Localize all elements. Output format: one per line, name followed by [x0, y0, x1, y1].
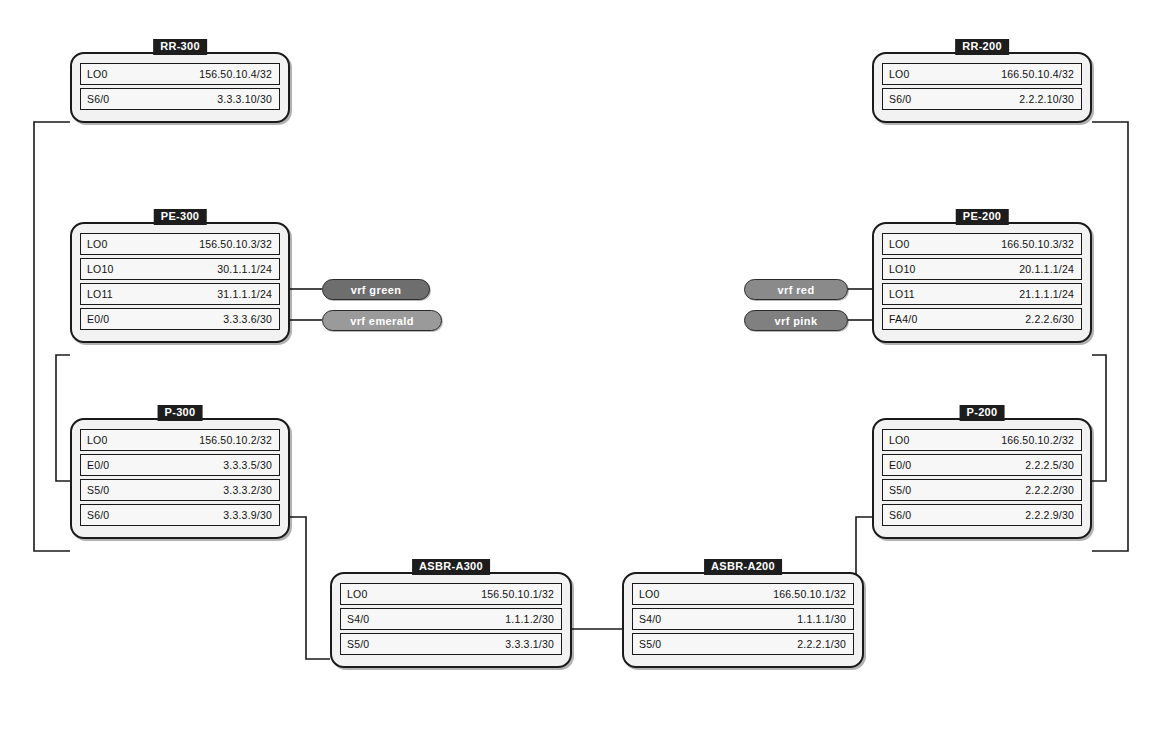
- interface-name: S6/0: [87, 93, 109, 105]
- link-rr300-p300: [34, 122, 70, 551]
- interface-address: 156.50.10.2/32: [199, 434, 272, 446]
- link-rr200-p200: [1092, 122, 1128, 551]
- interface-rows: LO0 166.50.10.3/32 LO10 20.1.1.1/24 LO11…: [882, 233, 1082, 330]
- interface-address: 156.50.10.4/32: [199, 68, 272, 80]
- interface-rows: LO0 156.50.10.4/32 S6/0 3.3.3.10/30: [80, 63, 280, 110]
- interface-row: LO11 21.1.1.1/24: [882, 283, 1082, 305]
- interface-name: LO11: [889, 288, 915, 300]
- interface-address: 3.3.3.9/30: [223, 509, 272, 521]
- interface-name: S4/0: [639, 613, 661, 625]
- interface-rows: LO0 166.50.10.1/32 S4/0 1.1.1.1/30 S5/0 …: [632, 583, 854, 655]
- interface-row: LO0 166.50.10.4/32: [882, 63, 1082, 85]
- node-title-rr-300: RR-300: [153, 39, 207, 55]
- interface-row: S5/0 2.2.2.2/30: [882, 479, 1082, 501]
- interface-address: 156.50.10.3/32: [199, 238, 272, 250]
- node-title-p-300: P-300: [158, 405, 203, 421]
- interface-row: E0/0 2.2.2.5/30: [882, 454, 1082, 476]
- interface-address: 1.1.1.2/30: [505, 613, 554, 625]
- node-pe-200[interactable]: PE-200 LO0 166.50.10.3/32 LO10 20.1.1.1/…: [872, 222, 1092, 343]
- interface-name: S5/0: [87, 484, 109, 496]
- interface-address: 31.1.1.1/24: [217, 288, 272, 300]
- interface-name: LO0: [889, 238, 909, 250]
- interface-address: 2.2.2.1/30: [797, 638, 846, 650]
- vrf-badge-emerald[interactable]: vrf emerald: [322, 310, 442, 331]
- vrf-badge-red[interactable]: vrf red: [744, 279, 848, 300]
- interface-rows: LO0 156.50.10.1/32 S4/0 1.1.1.2/30 S5/0 …: [340, 583, 562, 655]
- interface-address: 166.50.10.3/32: [1001, 238, 1074, 250]
- interface-row: LO0 156.50.10.4/32: [80, 63, 280, 85]
- interface-name: S6/0: [889, 93, 911, 105]
- link-pe300-p300: [56, 355, 70, 481]
- interface-address: 3.3.3.1/30: [505, 638, 554, 650]
- interface-name: LO0: [347, 588, 367, 600]
- interface-address: 3.3.3.5/30: [223, 459, 272, 471]
- node-title-pe-200: PE-200: [956, 209, 1009, 225]
- interface-rows: LO0 166.50.10.2/32 E0/0 2.2.2.5/30 S5/0 …: [882, 429, 1082, 526]
- interface-row: FA4/0 2.2.2.6/30: [882, 308, 1082, 330]
- vrf-badge-green[interactable]: vrf green: [322, 279, 430, 300]
- interface-address: 2.2.2.5/30: [1025, 459, 1074, 471]
- vrf-badge-pink[interactable]: vrf pink: [744, 310, 848, 331]
- interface-address: 3.3.3.6/30: [223, 313, 272, 325]
- interface-row: E0/0 3.3.3.5/30: [80, 454, 280, 476]
- node-rr-300[interactable]: RR-300 LO0 156.50.10.4/32 S6/0 3.3.3.10/…: [70, 52, 290, 123]
- interface-address: 156.50.10.1/32: [481, 588, 554, 600]
- interface-name: LO0: [87, 434, 107, 446]
- link-pe200-p200: [1092, 355, 1106, 481]
- interface-row: LO10 20.1.1.1/24: [882, 258, 1082, 280]
- interface-name: LO0: [87, 238, 107, 250]
- interface-name: LO0: [889, 68, 909, 80]
- interface-row: LO0 166.50.10.2/32: [882, 429, 1082, 451]
- interface-row: S6/0 2.2.2.9/30: [882, 504, 1082, 526]
- vrf-label: vrf pink: [775, 315, 818, 327]
- interface-row: LO0 156.50.10.3/32: [80, 233, 280, 255]
- network-diagram-canvas: RR-300 LO0 156.50.10.4/32 S6/0 3.3.3.10/…: [0, 0, 1161, 735]
- interface-row: S5/0 3.3.3.2/30: [80, 479, 280, 501]
- interface-name: LO0: [889, 434, 909, 446]
- interface-address: 21.1.1.1/24: [1019, 288, 1074, 300]
- node-title-rr-200: RR-200: [955, 39, 1009, 55]
- interface-name: E0/0: [87, 313, 109, 325]
- interface-name: LO0: [87, 68, 107, 80]
- interface-name: S6/0: [889, 509, 911, 521]
- interface-rows: LO0 156.50.10.3/32 LO10 30.1.1.1/24 LO11…: [80, 233, 280, 330]
- interface-row: S6/0 3.3.3.9/30: [80, 504, 280, 526]
- interface-address: 3.3.3.2/30: [223, 484, 272, 496]
- interface-name: S5/0: [347, 638, 369, 650]
- node-title-pe-300: PE-300: [154, 209, 207, 225]
- link-p300-asbr300: [290, 517, 330, 659]
- interface-name: LO10: [889, 263, 916, 275]
- interface-address: 2.2.2.6/30: [1025, 313, 1074, 325]
- interface-name: E0/0: [87, 459, 109, 471]
- interface-address: 1.1.1.1/30: [797, 613, 846, 625]
- node-asbr-a300[interactable]: ASBR-A300 LO0 156.50.10.1/32 S4/0 1.1.1.…: [330, 572, 572, 668]
- interface-address: 166.50.10.1/32: [773, 588, 846, 600]
- node-pe-300[interactable]: PE-300 LO0 156.50.10.3/32 LO10 30.1.1.1/…: [70, 222, 290, 343]
- interface-rows: LO0 166.50.10.4/32 S6/0 2.2.2.10/30: [882, 63, 1082, 110]
- interface-row: S6/0 3.3.3.10/30: [80, 88, 280, 110]
- interface-address: 20.1.1.1/24: [1019, 263, 1074, 275]
- node-rr-200[interactable]: RR-200 LO0 166.50.10.4/32 S6/0 2.2.2.10/…: [872, 52, 1092, 123]
- interface-address: 166.50.10.2/32: [1001, 434, 1074, 446]
- node-title-asbr-a300: ASBR-A300: [412, 559, 490, 575]
- node-title-p-200: P-200: [960, 405, 1005, 421]
- vrf-label: vrf emerald: [350, 315, 414, 327]
- interface-name: E0/0: [889, 459, 911, 471]
- interface-row: S4/0 1.1.1.1/30: [632, 608, 854, 630]
- interface-name: LO10: [87, 263, 114, 275]
- interface-address: 166.50.10.4/32: [1001, 68, 1074, 80]
- interface-row: S4/0 1.1.1.2/30: [340, 608, 562, 630]
- interface-row: S6/0 2.2.2.10/30: [882, 88, 1082, 110]
- interface-row: LO11 31.1.1.1/24: [80, 283, 280, 305]
- interface-name: LO0: [639, 588, 659, 600]
- node-title-asbr-a200: ASBR-A200: [704, 559, 782, 575]
- node-asbr-a200[interactable]: ASBR-A200 LO0 166.50.10.1/32 S4/0 1.1.1.…: [622, 572, 864, 668]
- interface-name: S4/0: [347, 613, 369, 625]
- interface-row: LO0 166.50.10.3/32: [882, 233, 1082, 255]
- node-p-300[interactable]: P-300 LO0 156.50.10.2/32 E0/0 3.3.3.5/30…: [70, 418, 290, 539]
- vrf-label: vrf green: [351, 284, 402, 296]
- interface-row: S5/0 2.2.2.1/30: [632, 633, 854, 655]
- node-p-200[interactable]: P-200 LO0 166.50.10.2/32 E0/0 2.2.2.5/30…: [872, 418, 1092, 539]
- interface-row: LO0 166.50.10.1/32: [632, 583, 854, 605]
- vrf-label: vrf red: [777, 284, 814, 296]
